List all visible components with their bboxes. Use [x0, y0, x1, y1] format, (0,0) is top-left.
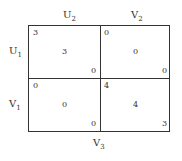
- row-label-v1-sub: 1: [16, 104, 20, 112]
- row-label-u1: U1: [9, 46, 22, 60]
- payoff-matrix: 3 3 0 0 0 0 0 0 0 4 4 3: [28, 25, 170, 132]
- payoff-center: 3: [62, 48, 67, 56]
- bottom-label-v3: V3: [93, 138, 105, 152]
- column-label-v2: V2: [131, 10, 143, 24]
- payoff-center: 0: [62, 101, 67, 109]
- column-label-v2-sub: 2: [138, 15, 142, 23]
- payoff-top-left: 4: [104, 82, 109, 90]
- payoff-top-left: 0: [104, 29, 109, 37]
- column-label-u2: U2: [63, 10, 76, 24]
- payoff-bottom-right: 0: [91, 120, 96, 128]
- payoff-bottom-right: 3: [162, 120, 167, 128]
- cell-v1-v2: 4 4 3: [100, 79, 171, 131]
- cell-u1-v2: 0 0 0: [100, 26, 171, 78]
- payoff-center: 4: [133, 101, 138, 109]
- bottom-label-v3-sub: 3: [100, 143, 104, 151]
- payoff-bottom-right: 0: [91, 67, 96, 75]
- payoff-top-left: 3: [33, 29, 38, 37]
- payoff-top-left: 0: [33, 82, 38, 90]
- row-label-u1-sub: 1: [17, 51, 21, 59]
- row-label-v1: V1: [9, 99, 21, 113]
- column-label-u2-sub: 2: [71, 15, 75, 23]
- payoff-bottom-right: 0: [162, 67, 167, 75]
- payoff-center: 0: [133, 48, 138, 56]
- cell-u1-u2: 3 3 0: [29, 26, 100, 78]
- cell-v1-u2: 0 0 0: [29, 79, 100, 131]
